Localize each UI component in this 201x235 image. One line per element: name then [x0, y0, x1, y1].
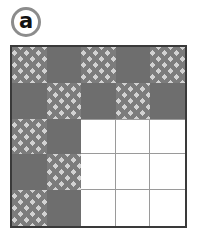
- grid-cell-empty: [116, 190, 151, 226]
- grid-cell-empty: [116, 119, 151, 155]
- grid-cell-chevron: [81, 47, 116, 83]
- grid-cell-solid: [12, 83, 47, 119]
- grid-cell-empty: [116, 154, 151, 190]
- grid-cell-chevron: [12, 47, 47, 83]
- grid-cell-empty: [150, 154, 185, 190]
- grid-cell-chevron: [150, 47, 185, 83]
- grid-cell-chevron: [116, 83, 151, 119]
- grid-cell-chevron: [12, 119, 47, 155]
- grid-cell-solid: [81, 83, 116, 119]
- grid-cell-empty: [150, 190, 185, 226]
- grid-cell-solid: [47, 190, 82, 226]
- grid-cell-empty: [81, 190, 116, 226]
- grid-cell-solid: [116, 47, 151, 83]
- grid-cell-solid: [47, 119, 82, 155]
- grid-cell-chevron: [12, 190, 47, 226]
- panel-label-letter: a: [19, 11, 33, 32]
- pattern-grid: [12, 47, 185, 226]
- grid-cell-solid: [150, 83, 185, 119]
- grid-cell-empty: [81, 119, 116, 155]
- pattern-grid-frame: [10, 45, 187, 228]
- panel-label-badge: a: [11, 7, 41, 37]
- grid-cell-empty: [81, 154, 116, 190]
- grid-cell-empty: [150, 119, 185, 155]
- grid-cell-chevron: [47, 83, 82, 119]
- grid-cell-solid: [47, 47, 82, 83]
- grid-cell-solid: [12, 154, 47, 190]
- grid-cell-chevron: [47, 154, 82, 190]
